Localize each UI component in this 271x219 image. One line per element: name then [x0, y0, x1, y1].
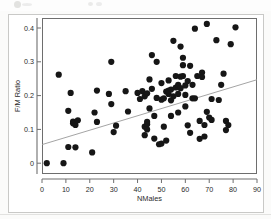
data-point — [149, 52, 155, 58]
data-point — [201, 122, 207, 128]
data-point — [60, 160, 66, 166]
data-point — [180, 73, 186, 79]
y-tick-label: 0.1 — [24, 125, 34, 134]
data-point — [91, 109, 97, 115]
data-point — [106, 91, 112, 97]
data-point — [158, 80, 164, 86]
data-point — [192, 95, 198, 101]
data-point — [228, 41, 234, 47]
data-point — [65, 108, 71, 114]
data-point — [180, 62, 186, 68]
y-tick-label: 0.2 — [24, 91, 34, 100]
data-point — [151, 135, 157, 141]
y-axis-ticks — [37, 18, 41, 174]
data-point — [89, 149, 95, 155]
data-point — [189, 82, 195, 88]
data-point — [182, 103, 188, 109]
scatter-chart: 0102030405060708090 00.10.20.30.4 NMales… — [0, 0, 271, 219]
data-point — [151, 113, 157, 119]
x-tick-label: 10 — [62, 185, 70, 194]
data-point — [65, 144, 71, 150]
scan-bottom-edge — [0, 214, 271, 215]
data-point — [144, 126, 150, 132]
data-point — [123, 88, 129, 94]
data-point — [209, 117, 215, 123]
data-point — [185, 122, 191, 128]
data-point — [220, 71, 226, 77]
y-axis-tick-labels: 00.10.20.30.4 — [24, 24, 34, 168]
data-point — [175, 109, 181, 115]
data-point — [166, 77, 172, 83]
scanned-figure-page: 0102030405060708090 00.10.20.30.4 NMales… — [0, 0, 271, 219]
data-point — [108, 101, 114, 107]
x-tick-label: 70 — [205, 185, 213, 194]
data-point — [187, 130, 193, 136]
data-point — [170, 38, 176, 44]
data-point — [187, 63, 193, 69]
data-point — [113, 123, 119, 129]
y-tick-label: 0.4 — [24, 24, 34, 33]
data-point — [168, 113, 174, 119]
data-point — [182, 92, 188, 98]
data-point — [225, 122, 231, 128]
data-point — [125, 108, 131, 114]
data-point — [154, 59, 160, 65]
y-axis-title: F/M Ratio — [13, 80, 22, 112]
x-tick-label: 90 — [253, 185, 261, 194]
x-axis-title: NMales — [137, 194, 162, 203]
data-point — [161, 124, 167, 130]
data-point — [144, 90, 150, 96]
data-point — [177, 43, 183, 49]
x-tick-label: 30 — [110, 185, 118, 194]
data-point — [161, 95, 167, 101]
x-tick-label: 0 — [40, 185, 44, 194]
data-point — [218, 82, 224, 88]
data-point — [108, 59, 114, 65]
data-point — [149, 86, 155, 92]
data-point — [146, 76, 152, 82]
data-point — [232, 24, 238, 30]
data-point — [213, 37, 219, 43]
data-point — [175, 91, 181, 97]
data-point — [94, 87, 100, 93]
data-point — [44, 160, 50, 166]
data-point — [204, 21, 210, 27]
x-tick-label: 40 — [134, 185, 142, 194]
data-point — [142, 132, 148, 138]
data-point — [216, 97, 222, 103]
data-point — [204, 109, 210, 115]
x-tick-label: 50 — [157, 185, 165, 194]
y-tick-label: 0 — [30, 159, 34, 168]
data-point — [75, 117, 81, 123]
data-point — [68, 90, 74, 96]
x-axis-tick-labels: 0102030405060708090 — [40, 185, 261, 194]
data-point — [197, 118, 203, 124]
x-tick-label: 20 — [86, 185, 94, 194]
data-point — [56, 72, 62, 78]
x-tick-label: 80 — [229, 185, 237, 194]
data-points — [44, 21, 239, 166]
data-point — [144, 119, 150, 125]
data-point — [163, 137, 169, 143]
x-tick-label: 60 — [181, 185, 189, 194]
data-point — [94, 119, 100, 125]
data-point — [180, 55, 186, 61]
data-point — [192, 26, 198, 32]
data-point — [111, 129, 117, 135]
data-point — [209, 96, 215, 102]
data-point — [146, 105, 152, 111]
data-point — [201, 133, 207, 139]
data-point — [72, 144, 78, 150]
data-point — [199, 74, 205, 80]
y-tick-label: 0.3 — [24, 57, 34, 66]
x-axis-ticks — [42, 179, 257, 183]
